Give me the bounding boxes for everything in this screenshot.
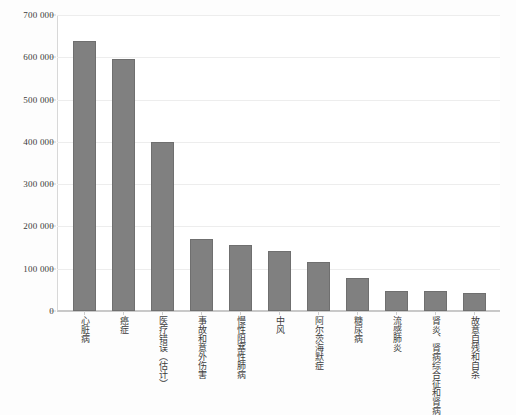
x-axis-label-text: 流感肺炎 — [391, 316, 402, 352]
bar[interactable] — [268, 251, 291, 311]
x-tick-mark — [396, 311, 397, 315]
y-tick-label: 400 000 — [2, 137, 54, 147]
bar[interactable] — [73, 41, 96, 311]
x-tick-mark — [201, 311, 202, 315]
bar-slot — [143, 15, 182, 311]
x-axis-label: 流感肺炎 — [377, 316, 416, 404]
bar-slot — [104, 15, 143, 311]
y-tick-label: 500 000 — [2, 95, 54, 105]
x-axis-label-text: 糖尿病 — [352, 316, 363, 343]
x-axis-label-text: 阿尔茨海默症 — [313, 316, 324, 370]
x-axis-label: 肾炎、肾病综合征和肾病 — [416, 316, 455, 404]
x-tick-mark — [123, 311, 124, 315]
x-axis-label-text: 癌症 — [118, 316, 129, 334]
y-tick-label: 100 000 — [2, 264, 54, 274]
x-axis-label-text: 慢性阻塞性肺病 — [235, 316, 246, 379]
x-tick-mark — [240, 311, 241, 315]
x-axis-labels: 心脏病癌症医疗错误（估计）事故和意外伤害慢性阻塞性肺病中风阿尔茨海默症糖尿病流感… — [57, 316, 500, 406]
x-axis-label-text: 医疗错误（估计） — [157, 316, 168, 388]
y-tick-label: 300 000 — [2, 179, 54, 189]
x-axis-label-text: 中风 — [274, 316, 285, 334]
y-tick-label: 200 000 — [2, 221, 54, 231]
x-tick-mark — [162, 311, 163, 315]
bar-slot — [182, 15, 221, 311]
bar-slot — [65, 15, 104, 311]
x-axis-label-text: 心脏病 — [79, 316, 90, 343]
bar-slot — [299, 15, 338, 311]
x-tick-mark — [84, 311, 85, 315]
bar[interactable] — [307, 262, 330, 311]
bar[interactable] — [151, 142, 174, 311]
x-tick-mark — [318, 311, 319, 315]
bar[interactable] — [229, 245, 252, 311]
bar[interactable] — [463, 293, 486, 311]
x-axis-label: 癌症 — [104, 316, 143, 404]
x-tick-mark — [474, 311, 475, 315]
x-tick-mark — [279, 311, 280, 315]
x-axis-label: 医疗错误（估计） — [143, 316, 182, 404]
bar[interactable] — [385, 291, 408, 311]
x-axis-label-text: 事故和意外伤害 — [196, 316, 207, 379]
y-tick-label: 700 000 — [2, 10, 54, 20]
bar-slot — [260, 15, 299, 311]
x-axis-label: 慢性阻塞性肺病 — [221, 316, 260, 404]
x-tick-mark — [357, 311, 358, 315]
y-tick-label: 600 000 — [2, 52, 54, 62]
bar-slot — [338, 15, 377, 311]
bar-series — [57, 15, 500, 311]
x-axis-label: 中风 — [260, 316, 299, 404]
bar[interactable] — [112, 59, 135, 311]
bar[interactable] — [190, 239, 213, 311]
bar-slot — [377, 15, 416, 311]
bar-slot — [416, 15, 455, 311]
x-axis-label: 故意自残和自杀 — [455, 316, 494, 404]
bar-slot — [221, 15, 260, 311]
y-tick-label: 0 — [2, 306, 54, 316]
x-axis-label: 阿尔茨海默症 — [299, 316, 338, 404]
x-axis-label-text: 肾炎、肾病综合征和肾病 — [430, 316, 441, 415]
bar[interactable] — [346, 278, 369, 311]
bar[interactable] — [424, 291, 447, 311]
x-tick-mark — [435, 311, 436, 315]
bar-slot — [455, 15, 494, 311]
x-axis-label: 糖尿病 — [338, 316, 377, 404]
x-axis-label: 心脏病 — [65, 316, 104, 404]
x-axis-label-text: 故意自残和自杀 — [469, 316, 480, 379]
x-axis-label: 事故和意外伤害 — [182, 316, 221, 404]
